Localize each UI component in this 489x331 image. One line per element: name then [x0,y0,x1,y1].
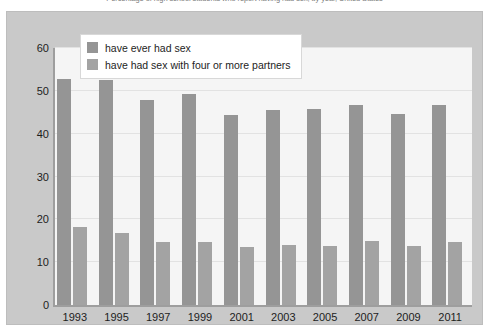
legend-label: have ever had sex [105,42,191,54]
x-tick-label: 2001 [222,311,262,323]
bar [198,242,212,305]
y-tick-label: 40 [11,128,49,140]
legend-swatch-icon [87,59,98,70]
x-tick-label: 2003 [263,311,303,323]
bar [349,105,363,305]
bar [99,80,113,305]
x-tick-label: 2009 [388,311,428,323]
x-tick-label: 2011 [430,311,470,323]
chart-legend: have ever had sexhave had sex with four … [80,34,302,79]
y-tick-label: 50 [11,85,49,97]
legend-item: have had sex with four or more partners [87,56,291,73]
bar [432,105,446,305]
figure-caption: Percentage of high school students who r… [106,0,382,3]
bar-group [264,48,306,305]
bar [182,94,196,305]
legend-item: have ever had sex [87,39,291,56]
bar [448,242,462,305]
y-tick-label: 20 [11,213,49,225]
y-tick-label: 0 [11,299,49,311]
bar [115,233,129,305]
bar [365,241,379,305]
bar [266,110,280,305]
y-tick-label: 10 [11,256,49,268]
plot-inner [55,48,472,305]
x-tick-label: 1993 [55,311,95,323]
x-tick-label: 2005 [305,311,345,323]
bar-group [180,48,222,305]
bar-group [138,48,180,305]
bar-group [55,48,97,305]
bar [391,114,405,305]
x-tick-label: 1995 [97,311,137,323]
y-tick-label: 30 [11,171,49,183]
y-axis: 0102030405060 [7,48,49,307]
x-tick-label: 2007 [347,311,387,323]
x-tick-label: 1999 [180,311,220,323]
bar [307,109,321,305]
bar [156,242,170,305]
bar-group [389,48,431,305]
legend-swatch-icon [87,42,98,53]
bar [224,115,238,305]
bar [140,100,154,305]
plot-area [53,48,472,307]
bar-chart-figure: 0102030405060 19931995199719992001200320… [6,11,483,325]
bar-group [347,48,389,305]
bar [407,246,421,305]
bar-group [305,48,347,305]
bar [323,246,337,305]
bar [73,227,87,305]
y-tick-label: 60 [11,42,49,54]
bar [240,247,254,305]
x-tick-label: 1997 [138,311,178,323]
x-axis: 1993199519971999200120032005200720092011 [53,311,472,329]
figure-caption-strip: Percentage of high school students who r… [0,0,489,9]
bar-group [97,48,139,305]
bar-group [430,48,472,305]
bar [282,245,296,305]
legend-label: have had sex with four or more partners [105,59,291,71]
bar-group [222,48,264,305]
bar [57,79,71,305]
